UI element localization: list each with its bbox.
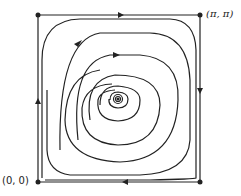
- fixed-point: [36, 13, 41, 18]
- fixed-point: [198, 13, 203, 18]
- trajectory: [82, 75, 160, 145]
- pi-corner-label: (π, π): [206, 8, 233, 19]
- arrow-icon: [35, 98, 41, 104]
- fixed-point: [36, 180, 41, 185]
- center-point: [117, 98, 120, 101]
- arrow-icon: [118, 12, 124, 18]
- origin-label: (0, 0): [2, 175, 29, 186]
- arrow-icon: [197, 88, 203, 94]
- phase-portrait: [0, 0, 241, 196]
- arrow-icon: [113, 52, 120, 58]
- fixed-point: [198, 180, 203, 185]
